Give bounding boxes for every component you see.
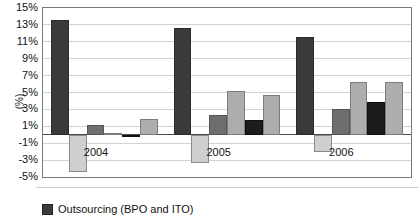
group-label-2004: 2004 [84, 146, 108, 158]
gridline [43, 143, 411, 144]
bar [227, 91, 245, 135]
bar [263, 95, 281, 135]
y-tick-mark [42, 143, 43, 144]
y-tick-mark [42, 109, 43, 110]
y-tick-mark [42, 8, 43, 9]
gridline [43, 75, 411, 76]
y-tick-label: 15% [0, 2, 38, 12]
legend-label-outsourcing: Outsourcing (BPO and ITO) [58, 203, 194, 215]
bar [87, 125, 105, 134]
y-tick-mark [42, 41, 43, 42]
y-tick-label: 7% [0, 70, 38, 80]
gridline [43, 160, 411, 161]
y-tick-mark [42, 177, 43, 178]
legend-swatch-outsourcing [42, 204, 53, 215]
bar [296, 37, 314, 135]
bar [350, 82, 368, 135]
y-tick-label: -1% [0, 137, 38, 147]
bottom-divider [36, 187, 418, 188]
y-tick-label: 1% [0, 120, 38, 130]
y-tick-label: 3% [0, 103, 38, 113]
bar [104, 133, 122, 135]
y-tick-mark [42, 24, 43, 25]
group-label-2006: 2006 [329, 146, 353, 158]
y-tick-mark [42, 160, 43, 161]
y-tick-mark [42, 75, 43, 76]
y-tick-label: 9% [0, 53, 38, 63]
y-axis-tick-labels: 15%13%11%9%7%5%3%1%-1%-3%-5% [0, 0, 38, 216]
legend: Outsourcing (BPO and ITO) [42, 203, 194, 215]
bar [174, 28, 192, 134]
bar [209, 115, 227, 134]
bar [332, 109, 350, 135]
gridline [43, 41, 411, 42]
y-tick-label: -5% [0, 171, 38, 181]
bar [122, 135, 140, 137]
y-tick-mark [42, 126, 43, 127]
y-tick-label: 5% [0, 87, 38, 97]
bar [385, 82, 403, 135]
y-tick-label: 13% [0, 19, 38, 29]
group-label-2005: 2005 [206, 146, 230, 158]
y-tick-label: 11% [0, 36, 38, 46]
bar [245, 120, 263, 134]
y-tick-mark [42, 58, 43, 59]
bar [51, 20, 69, 135]
bar [367, 102, 385, 135]
y-tick-mark [42, 92, 43, 93]
bar [140, 119, 158, 135]
y-tick-label: -3% [0, 154, 38, 164]
gridline [43, 58, 411, 59]
gridline [43, 24, 411, 25]
gridline [43, 177, 411, 178]
bar-chart: (%) 15%13%11%9%7%5%3%1%-1%-3%-5% Outsour… [0, 0, 418, 216]
